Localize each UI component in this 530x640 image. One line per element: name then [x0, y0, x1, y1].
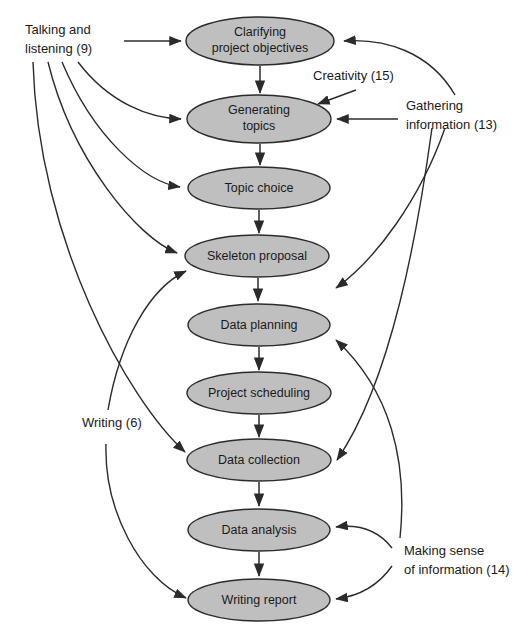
edge-talking-to-generating	[78, 62, 181, 119]
node-data-planning[interactable]: Data planning	[188, 304, 330, 346]
node-label-line1: Topic choice	[225, 181, 294, 195]
node-label-line1: Generating	[228, 103, 290, 117]
talking-and-listening-edge-group	[33, 41, 185, 452]
node-label-line1: Data analysis	[221, 523, 296, 537]
node-label-line1: Clarifying	[234, 25, 286, 39]
edge-writing-to-writing-report	[106, 444, 186, 598]
side-label-line1: Gathering	[406, 98, 463, 113]
edge-making-sense-to-data-analysis	[336, 526, 392, 548]
node-clarifying-project-objectives[interactable]: Clarifying project objectives	[186, 17, 334, 65]
side-label-line1: Talking and	[25, 22, 91, 37]
node-writing-report[interactable]: Writing report	[188, 579, 330, 621]
side-label-gathering-information: Gathering information (13)	[406, 98, 497, 132]
side-label-line1: Creativity (15)	[313, 68, 394, 83]
node-label-line2: topics	[243, 119, 276, 133]
node-generating-topics[interactable]: Generating topics	[187, 95, 331, 143]
node-label-line1: Data collection	[218, 453, 300, 467]
node-topic-choice[interactable]: Topic choice	[188, 167, 330, 209]
flow-diagram-canvas: Clarifying project objectives Generating…	[0, 0, 530, 640]
side-label-line2: of information (14)	[404, 562, 510, 577]
side-label-writing: Writing (6)	[82, 415, 142, 430]
node-label-line2: project objectives	[212, 41, 309, 55]
node-project-scheduling[interactable]: Project scheduling	[187, 372, 331, 414]
node-label-line1: Skeleton proposal	[207, 249, 307, 263]
side-label-creativity: Creativity (15)	[313, 68, 394, 83]
side-label-line2: information (13)	[406, 117, 497, 132]
side-label-talking-and-listening: Talking and listening (9)	[25, 22, 92, 56]
node-skeleton-proposal[interactable]: Skeleton proposal	[185, 235, 329, 277]
side-label-making-sense-of-information: Making sense of information (14)	[404, 543, 510, 577]
creativity-edge-group	[318, 90, 356, 104]
edge-talking-to-skeleton	[48, 62, 177, 253]
node-label-line1: Project scheduling	[208, 386, 310, 400]
writing-edge-group	[106, 271, 186, 598]
edge-talking-to-topic-choice	[62, 62, 180, 187]
side-label-line1: Making sense	[404, 543, 484, 558]
making-sense-edge-group	[336, 340, 402, 599]
side-label-line1: Writing (6)	[82, 415, 142, 430]
node-label-line1: Data planning	[220, 318, 297, 332]
node-data-collection[interactable]: Data collection	[187, 439, 331, 481]
edge-making-sense-to-data-planning	[336, 340, 402, 538]
edge-talking-to-data-collection	[33, 62, 185, 452]
edge-making-sense-to-writing-report	[336, 566, 392, 599]
process-flow-diagram: Clarifying project objectives Generating…	[0, 0, 530, 640]
node-label-line1: Writing report	[222, 593, 297, 607]
side-label-line2: listening (9)	[25, 41, 92, 56]
node-data-analysis[interactable]: Data analysis	[188, 509, 330, 551]
edge-creativity-to-generating	[318, 90, 356, 104]
edge-writing-to-skeleton	[108, 271, 186, 410]
